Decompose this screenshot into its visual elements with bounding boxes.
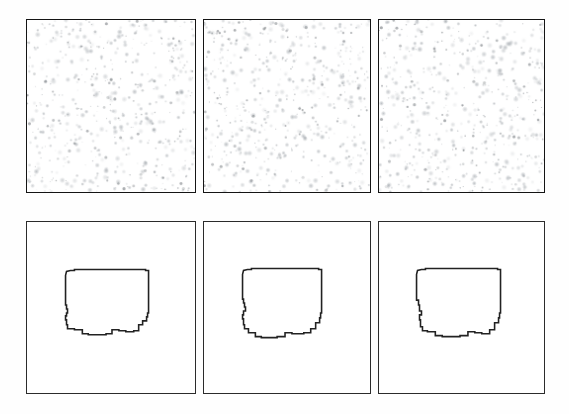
panel-bottom-middle: [203, 221, 371, 394]
panel-bottom-left: [26, 221, 196, 394]
contour-outline: [379, 222, 544, 393]
speckle-texture: [204, 20, 370, 192]
panel-top-left: [26, 19, 196, 193]
panel-top-right: [378, 19, 545, 193]
contour-path: [243, 268, 322, 337]
speckle-texture: [27, 20, 195, 192]
contour-path: [417, 268, 501, 336]
contour-outline: [204, 222, 370, 393]
panel-bottom-right: [378, 221, 545, 394]
panel-top-middle: [203, 19, 371, 193]
speckle-texture: [379, 20, 544, 192]
contour-path: [66, 269, 149, 334]
figure-canvas: [0, 0, 569, 414]
contour-outline: [27, 222, 195, 393]
